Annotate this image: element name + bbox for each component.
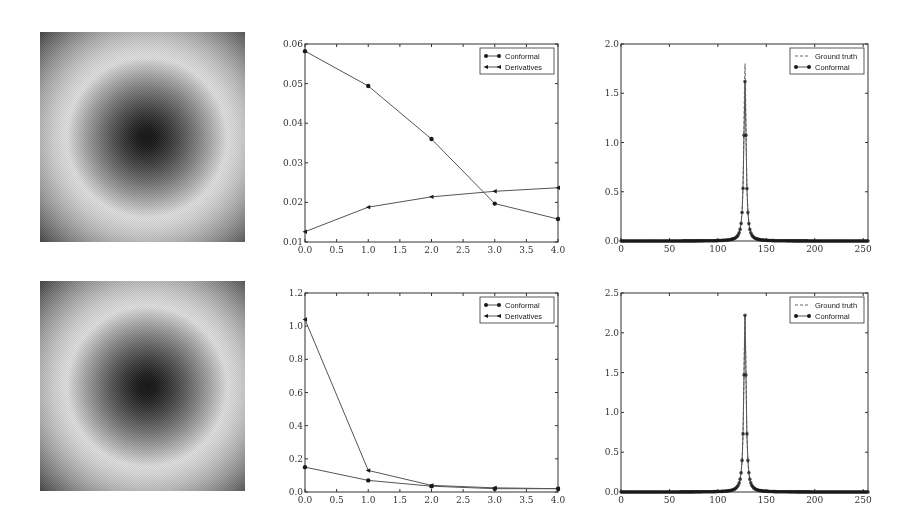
marker-circle <box>745 432 749 436</box>
x-tick-label: 100 <box>709 495 726 505</box>
legend: Ground truthConformal <box>790 297 864 323</box>
marker-circle <box>739 471 743 475</box>
marker-circle <box>866 490 870 494</box>
marker-circle <box>744 373 748 377</box>
marker-circle <box>748 477 752 481</box>
legend-label: Conformal <box>815 312 850 321</box>
marker-circle <box>741 432 745 436</box>
x-tick-label: 150 <box>758 495 775 505</box>
marker-circle <box>743 313 747 317</box>
marker-circle <box>746 459 750 463</box>
legend-marker-circle <box>807 314 811 318</box>
marker-circle <box>740 459 744 463</box>
y-tick-label: 2.0 <box>605 328 620 338</box>
y-tick-label: 0.5 <box>605 447 620 457</box>
chart-profile-bottom: 0501001502002500.00.51.01.52.02.5Ground … <box>0 0 915 525</box>
y-tick-label: 1.0 <box>605 407 620 417</box>
marker-circle <box>738 477 742 481</box>
x-tick-label: 50 <box>664 495 676 505</box>
series-line-conformal <box>621 315 868 492</box>
plot-area <box>619 313 870 493</box>
x-tick-label: 250 <box>855 495 872 505</box>
legend-marker-circle <box>794 314 798 318</box>
y-tick-label: 2.5 <box>605 288 620 298</box>
legend-label: Ground truth <box>815 301 857 310</box>
marker-circle <box>737 481 741 485</box>
y-tick-label: 1.5 <box>605 368 620 378</box>
y-tick-label: 0.0 <box>605 487 620 497</box>
x-tick-label: 0 <box>618 495 624 505</box>
marker-circle <box>747 471 751 475</box>
x-tick-label: 200 <box>806 495 823 505</box>
